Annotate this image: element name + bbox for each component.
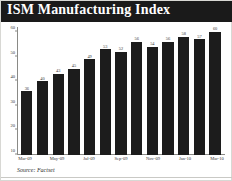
bar-slot: 52 <box>113 27 129 155</box>
bar[interactable]: 56 <box>131 42 142 155</box>
bar-value-label: 58 <box>182 31 186 36</box>
y-axis-tick-label: 40 <box>10 74 15 79</box>
bar-slot: 45 <box>66 27 82 155</box>
bar[interactable]: 53 <box>100 49 111 155</box>
bar-value-label: 56 <box>134 36 138 41</box>
bar-slot: 54 <box>145 27 161 155</box>
bar-slot: 40 <box>35 27 51 155</box>
bar[interactable]: 58 <box>178 37 189 155</box>
x-axis-tick-label: Jul-09 <box>83 156 94 161</box>
x-axis-tick-label: Sep-09 <box>114 156 127 161</box>
bar-slot: 53 <box>97 27 113 155</box>
bar[interactable]: 45 <box>68 69 79 155</box>
y-axis-tick-label: 30 <box>10 98 15 103</box>
y-axis-tick-label: 50 <box>10 49 15 54</box>
bar-slot: 43 <box>50 27 66 155</box>
bar-slot: 36 <box>19 27 35 155</box>
chart-title: ISM Manufacturing Index <box>7 2 170 18</box>
plot-area: 102030405060 36404345495352565456585760 <box>17 27 225 155</box>
bar-value-label: 40 <box>40 76 44 81</box>
x-axis-tick-label: Nov-09 <box>146 156 160 161</box>
bar-slot: 56 <box>160 27 176 155</box>
bar-value-label: 52 <box>119 46 123 51</box>
bar-value-label: 45 <box>72 63 76 68</box>
x-axis-tick-label: Mar-09 <box>18 156 32 161</box>
bar-value-label: 60 <box>213 26 217 31</box>
bar[interactable]: 43 <box>53 74 64 155</box>
y-axis-tick-label: 60 <box>10 24 15 29</box>
bar[interactable]: 52 <box>115 52 126 155</box>
bar[interactable]: 60 <box>209 32 220 155</box>
bar-value-label: 54 <box>150 41 154 46</box>
chart-figure: ISM Manufacturing Index 102030405060 364… <box>0 0 232 181</box>
bar-value-label: 36 <box>25 86 29 91</box>
bar-value-label: 43 <box>56 68 60 73</box>
bar-slot: 60 <box>207 27 223 155</box>
bar[interactable]: 56 <box>162 42 173 155</box>
bar-slot: 56 <box>129 27 145 155</box>
bar-slot: 49 <box>82 27 98 155</box>
chart-title-bar: ISM Manufacturing Index <box>1 1 232 22</box>
y-axis-tick-label: 20 <box>10 123 15 128</box>
bar-slot: 58 <box>176 27 192 155</box>
bar[interactable]: 40 <box>37 81 48 155</box>
bar[interactable]: 57 <box>194 39 205 155</box>
bar[interactable]: 54 <box>147 47 158 155</box>
bar-value-label: 53 <box>103 44 107 49</box>
x-axis-tick-label: May-09 <box>50 156 65 161</box>
x-axis-tick-label: Mar-10 <box>210 156 224 161</box>
bar-value-label: 49 <box>87 54 91 59</box>
bar[interactable]: 49 <box>84 59 95 155</box>
bar-slot: 57 <box>192 27 208 155</box>
bar-value-label: 57 <box>197 34 201 39</box>
bar-series: 36404345495352565456585760 <box>17 27 225 155</box>
bar[interactable]: 36 <box>21 91 32 155</box>
x-axis-ticks: Mar-09May-09Jul-09Sep-09Nov-09Jan-10Mar-… <box>17 156 225 165</box>
bar-value-label: 56 <box>166 36 170 41</box>
y-axis-tick-label: 10 <box>10 148 15 153</box>
source-note: Source: Factset <box>17 167 55 173</box>
x-axis-tick-label: Jan-10 <box>179 156 191 161</box>
bottom-rule <box>1 177 232 178</box>
